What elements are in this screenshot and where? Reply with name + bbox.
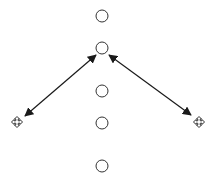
double-arrow-right bbox=[109, 55, 191, 115]
node-4[interactable] bbox=[96, 117, 108, 129]
move-handle-left[interactable] bbox=[12, 117, 23, 128]
node-3[interactable] bbox=[96, 85, 108, 97]
node-1[interactable] bbox=[96, 10, 108, 22]
node-2[interactable] bbox=[96, 42, 108, 54]
double-arrow-left bbox=[25, 55, 96, 116]
nodes bbox=[96, 10, 108, 172]
move-handle-right[interactable] bbox=[194, 117, 205, 128]
diagram-canvas bbox=[0, 0, 222, 184]
node-5[interactable] bbox=[96, 160, 108, 172]
diagram-svg bbox=[0, 0, 222, 184]
move-icon bbox=[194, 117, 205, 128]
arrows bbox=[25, 55, 191, 116]
move-icon bbox=[12, 117, 23, 128]
